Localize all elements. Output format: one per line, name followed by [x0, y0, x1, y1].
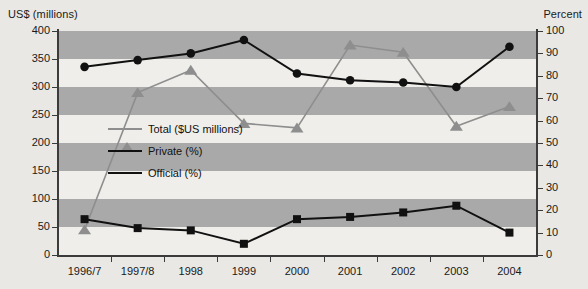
grid-band	[58, 199, 536, 227]
left-tick-label: 300	[6, 81, 50, 92]
x-axis-line	[57, 255, 538, 257]
x-tick-mark	[324, 257, 325, 262]
x-tick-mark	[377, 257, 378, 262]
legend-item-total: Total ($US millions)	[108, 118, 278, 140]
right-tick-mark	[538, 210, 543, 211]
right-tick-label: 40	[546, 159, 584, 170]
right-axis-title: Percent	[543, 8, 582, 20]
chart-legend: Total ($US millions) Private (%) Officia…	[108, 118, 278, 184]
left-tick-mark	[52, 31, 57, 32]
right-tick-label: 90	[546, 47, 584, 58]
left-tick-mark	[52, 87, 57, 88]
right-tick-label: 70	[546, 92, 584, 103]
left-axis-line	[57, 29, 59, 257]
left-axis-title: US$ (millions)	[8, 8, 78, 20]
legend-item-official: Official (%)	[108, 162, 278, 184]
left-tick-label: 250	[6, 109, 50, 120]
left-tick-mark	[52, 171, 57, 172]
right-tick-mark	[538, 188, 543, 189]
x-tick-mark	[111, 257, 112, 262]
left-tick-mark	[52, 143, 57, 144]
x-tick-mark	[483, 257, 484, 262]
left-tick-label: 150	[6, 165, 50, 176]
left-tick-label: 350	[6, 53, 50, 64]
legend-label-official: Official (%)	[148, 167, 202, 179]
legend-label-private: Private (%)	[148, 145, 202, 157]
right-tick-mark	[538, 233, 543, 234]
grid-band	[58, 87, 536, 115]
right-tick-label: 20	[546, 204, 584, 215]
left-tick-mark	[52, 199, 57, 200]
right-tick-mark	[538, 53, 543, 54]
right-tick-label: 0	[546, 249, 584, 260]
legend-item-private: Private (%)	[108, 140, 278, 162]
left-tick-mark	[52, 255, 57, 256]
x-tick-mark	[270, 257, 271, 262]
left-tick-label: 400	[6, 25, 50, 36]
right-tick-mark	[538, 143, 543, 144]
x-tick-mark	[217, 257, 218, 262]
triangle-marker-icon	[108, 122, 142, 136]
right-tick-mark	[538, 76, 543, 77]
right-tick-label: 80	[546, 70, 584, 81]
right-tick-mark	[538, 98, 543, 99]
left-tick-label: 0	[6, 249, 50, 260]
right-tick-mark	[538, 31, 543, 32]
x-tick-mark	[430, 257, 431, 262]
square-marker-icon	[108, 144, 142, 158]
chart-container: US$ (millions) Percent 40035030025020015…	[0, 0, 588, 289]
right-tick-label: 50	[546, 137, 584, 148]
left-tick-label: 50	[6, 221, 50, 232]
right-tick-label: 100	[546, 25, 584, 36]
left-tick-label: 200	[6, 137, 50, 148]
legend-label-total: Total ($US millions)	[148, 123, 243, 135]
grid-band	[58, 31, 536, 59]
left-tick-label: 100	[6, 193, 50, 204]
x-tick-mark	[164, 257, 165, 262]
left-tick-mark	[52, 227, 57, 228]
right-tick-label: 30	[546, 182, 584, 193]
circle-marker-icon	[108, 166, 142, 180]
right-tick-mark	[538, 165, 543, 166]
x-tick-label: 2004	[475, 266, 543, 277]
right-tick-label: 10	[546, 227, 584, 238]
left-tick-mark	[52, 59, 57, 60]
left-tick-mark	[52, 115, 57, 116]
right-tick-mark	[538, 121, 543, 122]
right-tick-label: 60	[546, 115, 584, 126]
right-tick-mark	[538, 255, 543, 256]
